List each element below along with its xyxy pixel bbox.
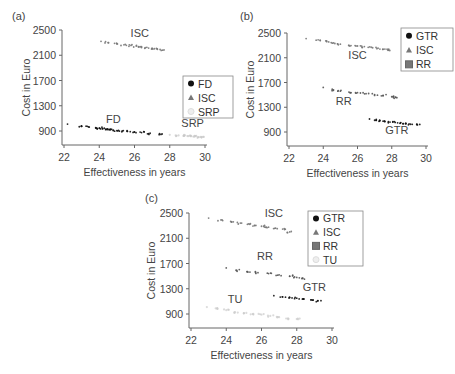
x-tick-label: 30 bbox=[199, 151, 211, 163]
data-point bbox=[237, 223, 239, 225]
data-point bbox=[105, 41, 107, 43]
data-point bbox=[385, 94, 387, 96]
x-tick-label: 28 bbox=[291, 334, 303, 346]
data-point bbox=[135, 132, 137, 134]
data-point bbox=[247, 271, 249, 273]
series-srp bbox=[169, 134, 205, 139]
data-point bbox=[114, 42, 116, 44]
legend-marker-rr-icon bbox=[313, 242, 320, 249]
y-tick-label: 1700 bbox=[258, 77, 282, 89]
data-point bbox=[147, 133, 149, 135]
data-point bbox=[206, 306, 208, 308]
chart-panel-b: (b)90013001700210025002224262830Effectiv… bbox=[240, 10, 453, 179]
data-point bbox=[270, 272, 272, 274]
data-point bbox=[124, 44, 126, 46]
data-point bbox=[379, 48, 381, 50]
legend: FDISCSRP bbox=[183, 76, 233, 118]
x-tick-label: 30 bbox=[420, 152, 432, 164]
data-point bbox=[287, 318, 289, 320]
legend-marker-gtr-icon bbox=[406, 33, 412, 39]
data-point bbox=[252, 225, 254, 227]
x-tick-label: 26 bbox=[256, 334, 268, 346]
data-point bbox=[337, 90, 339, 92]
panel-label: (a) bbox=[12, 10, 25, 22]
data-point bbox=[368, 93, 370, 95]
data-point bbox=[131, 44, 133, 46]
data-point bbox=[302, 277, 304, 279]
data-point bbox=[122, 130, 124, 132]
data-point bbox=[339, 43, 341, 45]
data-point bbox=[350, 45, 352, 47]
data-point bbox=[184, 134, 186, 136]
data-point bbox=[388, 48, 390, 50]
legend-marker-srp-icon bbox=[188, 109, 194, 115]
data-point bbox=[263, 225, 265, 227]
data-point bbox=[153, 48, 155, 50]
data-point bbox=[101, 128, 103, 130]
data-point bbox=[100, 40, 102, 42]
data-point bbox=[273, 295, 275, 297]
data-point bbox=[255, 272, 257, 274]
data-point bbox=[128, 45, 130, 47]
data-point bbox=[136, 45, 138, 47]
data-point bbox=[103, 127, 105, 129]
data-point bbox=[161, 133, 163, 135]
data-point bbox=[354, 45, 356, 47]
x-axis-label: Effectiveness in years bbox=[307, 167, 409, 179]
y-tick-label: 1300 bbox=[258, 101, 282, 113]
data-point bbox=[392, 121, 394, 123]
x-tick-label: 26 bbox=[352, 152, 364, 164]
data-point bbox=[133, 46, 135, 48]
legend-label: SRP bbox=[198, 106, 220, 118]
data-point bbox=[120, 45, 122, 47]
data-point bbox=[144, 47, 146, 49]
series-annotation: GTR bbox=[385, 124, 408, 136]
y-tick-label: 2500 bbox=[33, 24, 57, 36]
data-point bbox=[241, 222, 243, 224]
data-point bbox=[250, 313, 252, 315]
data-point bbox=[282, 228, 284, 230]
x-tick-label: 22 bbox=[185, 334, 197, 346]
data-point bbox=[317, 300, 319, 302]
data-point bbox=[248, 223, 250, 225]
data-point bbox=[285, 296, 287, 298]
data-point bbox=[419, 124, 421, 126]
data-point bbox=[383, 120, 385, 122]
data-point bbox=[217, 220, 219, 222]
data-point bbox=[132, 132, 134, 134]
data-point bbox=[289, 231, 291, 233]
data-point bbox=[297, 318, 299, 320]
y-tick-label: 1700 bbox=[33, 75, 57, 87]
data-point bbox=[355, 92, 357, 94]
legend-marker-gtr-icon bbox=[313, 215, 319, 221]
data-point bbox=[163, 49, 165, 51]
data-point bbox=[126, 130, 128, 132]
data-point bbox=[111, 128, 113, 130]
data-point bbox=[267, 314, 269, 316]
data-point bbox=[275, 275, 277, 277]
data-point bbox=[337, 43, 339, 45]
y-tick-label: 2100 bbox=[258, 52, 282, 64]
series-tu bbox=[206, 306, 301, 321]
data-point bbox=[175, 134, 177, 136]
data-point bbox=[276, 228, 278, 230]
series-annotation: ISC bbox=[265, 207, 283, 219]
legend-label: FD bbox=[198, 78, 212, 90]
data-point bbox=[322, 87, 324, 89]
data-point bbox=[252, 313, 254, 315]
data-point bbox=[208, 217, 210, 219]
data-point bbox=[254, 225, 256, 227]
data-point bbox=[360, 92, 362, 94]
chart-panel-c: (c)90013001700210025002224262830Effectiv… bbox=[145, 192, 363, 361]
data-point bbox=[392, 96, 394, 98]
data-point bbox=[223, 308, 225, 310]
y-tick-label: 2500 bbox=[258, 27, 282, 39]
y-axis-label: Cost in Euro bbox=[244, 60, 256, 118]
data-point bbox=[319, 39, 321, 41]
data-point bbox=[203, 136, 205, 138]
data-point bbox=[369, 46, 371, 48]
data-point bbox=[117, 43, 119, 45]
data-point bbox=[148, 47, 150, 49]
data-point bbox=[416, 123, 418, 125]
data-point bbox=[279, 296, 281, 298]
